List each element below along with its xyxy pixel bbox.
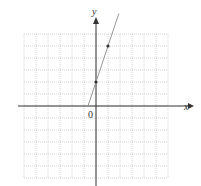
data-point xyxy=(94,80,97,83)
coordinate-plane: x y 0 xyxy=(0,0,201,186)
origin-label: 0 xyxy=(88,109,93,120)
x-axis-arrow-icon xyxy=(188,103,194,109)
data-point xyxy=(106,44,109,47)
y-axis-arrow-icon xyxy=(93,17,99,24)
y-axis-label: y xyxy=(91,6,97,17)
x-axis-label: x xyxy=(183,101,189,112)
line-y-equals-3x-plus-2 xyxy=(88,14,119,106)
